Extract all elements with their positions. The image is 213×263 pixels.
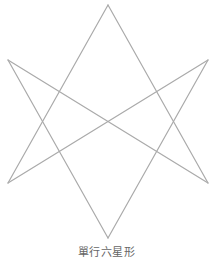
hexagram-segment-top-to-lower-right [108, 5, 208, 183]
hexagram-segment-upper-left-to-bottom [8, 60, 108, 238]
unicursal-hexagram-figure [0, 0, 213, 243]
hexagram-segment-top-to-lower-left [8, 5, 108, 183]
hexagram-segment-upper-right-to-bottom [108, 60, 208, 238]
hexagram-drawing [0, 0, 213, 243]
figure-caption: 單行六星形 [0, 246, 213, 260]
